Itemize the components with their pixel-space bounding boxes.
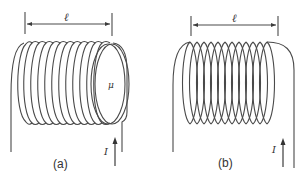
caption-a: (a) [53,157,68,171]
permeability-label: μ [108,80,114,90]
current-label-b: I [271,144,277,155]
arrowhead-right-icon [105,22,110,26]
current-label-a: I [103,146,109,157]
current-arrow-b [281,138,286,167]
solenoid-b: ℓ [173,12,294,170]
arrowhead-right-icon [271,23,276,27]
caption-b: (b) [218,156,233,170]
length-label-b: ℓ [232,12,237,25]
arrowhead-left-icon [193,23,198,27]
solenoid-a: ℓ μ [11,11,129,171]
solenoid-figure: ℓ μ [0,0,303,186]
arrowhead-left-icon [27,22,32,26]
arrow-up-icon [281,138,286,145]
arrow-up-icon [113,137,118,144]
length-label-a: ℓ [64,11,69,24]
current-arrow-a [113,137,118,166]
